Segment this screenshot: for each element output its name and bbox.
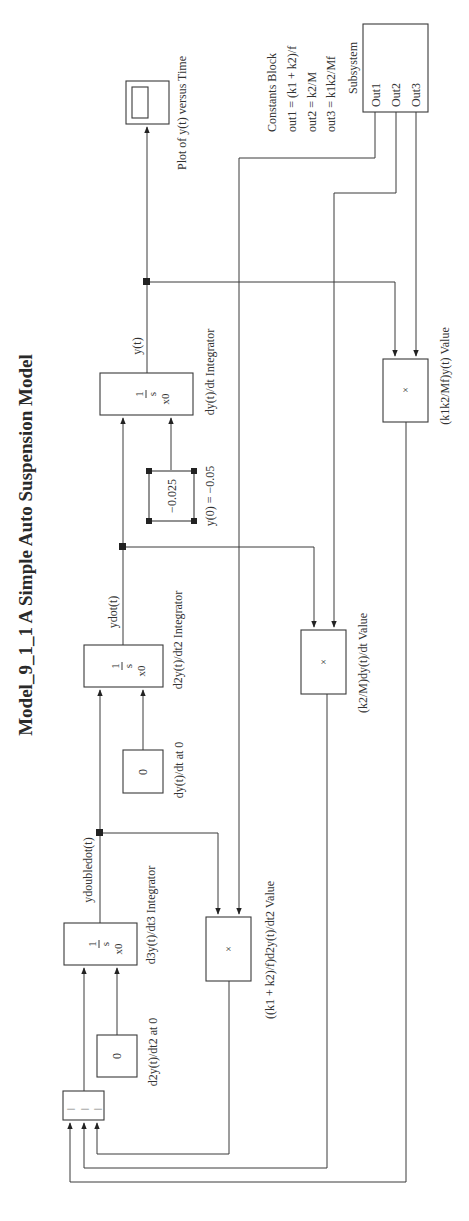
constant-d2y0-label: d2y(t)/dt2 at 0	[146, 1018, 160, 1087]
scope-label: Plot of y(t) versus Time	[175, 56, 189, 170]
port-out2: Out2	[389, 83, 403, 107]
product-1-label: ((k1 + k2)/f)d2y(t)/dt2 Value	[263, 881, 277, 1019]
product-symbol: ×	[318, 659, 329, 665]
product-block-1[interactable]: ×	[206, 917, 251, 981]
integrator-ic-label: x0	[135, 665, 147, 677]
integrator-dy-label: dy(t)/dt Integrator	[203, 329, 217, 415]
product-block-2[interactable]: ×	[301, 630, 346, 694]
description-line-3: out2 = k2/M	[305, 72, 319, 132]
product-symbol: ×	[223, 946, 234, 952]
integrator-block-d3y[interactable]: 1 s x0	[64, 923, 137, 965]
sum-sign-1: |	[65, 1108, 75, 1110]
integrator-ic-label: x0	[159, 393, 171, 405]
scope-screen-icon	[132, 87, 148, 118]
integrator-ic-label: x0	[112, 943, 124, 955]
simulink-diagram: Model_9_1_1 A Simple Auto Suspension Mod…	[0, 0, 469, 1221]
constant-value: 0	[110, 1053, 124, 1059]
integrator-denominator: s	[99, 942, 111, 946]
diagram-title: Model_9_1_1 A Simple Auto Suspension Mod…	[15, 354, 36, 736]
description-line-4: out3 = k1k2/Mf	[324, 56, 338, 132]
product-2-label: (k2/M)dy(t)/dt Value	[356, 613, 370, 713]
signal-label-y: y(t)	[130, 337, 144, 354]
sum-sign-2: |	[79, 1108, 89, 1110]
subsystem-block[interactable]: Out1 Out2 Out3	[363, 24, 428, 112]
constant-value: −0.025	[165, 479, 179, 513]
constant-y0-label: y(0) = −0.05	[203, 466, 217, 527]
sum-block[interactable]: | | |	[63, 1091, 104, 1120]
subsystem-description: Constants Block out1 = (k1 + k2)/f out2 …	[265, 46, 338, 132]
integrator-d3y-label: d3y(t)/dt3 Integrator	[144, 866, 158, 964]
constant-block-dy0[interactable]: 0	[123, 750, 163, 793]
signal-label-ydot: ydot(t)	[106, 596, 120, 629]
description-line-1: Constants Block	[265, 53, 279, 132]
branch-point-ydot	[119, 543, 126, 550]
integrator-denominator: s	[146, 392, 158, 396]
signal-label-ydoubledot: ydoubledot(t)	[81, 837, 95, 902]
integrator-numerator: 1	[133, 391, 145, 397]
scope-block[interactable]	[126, 81, 169, 124]
product-symbol: ×	[400, 387, 411, 393]
constant-value: 0	[136, 769, 150, 775]
branch-point-ydoubledot	[96, 829, 103, 836]
constant-block-d2y0[interactable]: 0	[97, 1035, 137, 1077]
branch-point-y	[143, 278, 150, 285]
port-out1: Out1	[369, 83, 383, 107]
constant-dy0-label: dy(t)/dt at 0	[172, 742, 186, 799]
subsystem-title: Subsystem	[346, 41, 360, 94]
description-line-2: out1 = (k1 + k2)/f	[285, 46, 299, 132]
integrator-block-dy[interactable]: 1 s x0	[100, 373, 193, 415]
integrator-d2y-label: d2y(t)/dt2 Integrator	[171, 591, 185, 689]
integrator-denominator: s	[122, 664, 134, 668]
integrator-block-d2y[interactable]: 1 s x0	[84, 645, 163, 687]
integrator-numerator: 1	[86, 941, 98, 947]
port-out3: Out3	[409, 83, 423, 107]
product-3-label: (k1k2/Mf)y(t) Value	[438, 327, 452, 424]
product-block-3[interactable]: ×	[383, 359, 428, 422]
integrator-numerator: 1	[109, 663, 121, 669]
sum-sign-3: |	[92, 1108, 102, 1110]
constant-block-y0[interactable]: −0.025	[146, 468, 197, 524]
